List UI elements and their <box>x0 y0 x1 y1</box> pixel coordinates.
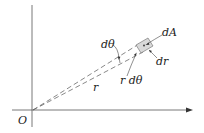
d-theta-label: dθ <box>101 39 115 50</box>
x-axis-arrow-icon <box>186 108 193 113</box>
dA-label: dA <box>162 27 177 38</box>
r-label: r <box>93 82 98 93</box>
r-dtheta-label: r dθ <box>120 75 142 86</box>
dr-label: dr <box>156 56 168 67</box>
x-axis <box>12 108 193 113</box>
leader-lines <box>113 35 162 76</box>
origin-label: O <box>18 115 27 126</box>
polar-area-diagram <box>0 0 204 133</box>
